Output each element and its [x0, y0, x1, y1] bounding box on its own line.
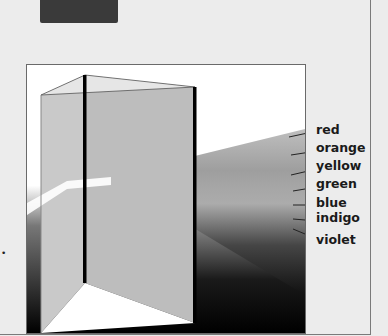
stray-mark: •	[1, 248, 6, 258]
label-violet: violet	[316, 233, 356, 247]
label-orange: orange	[316, 141, 366, 155]
prism-illustration	[26, 64, 306, 334]
prism-diagram	[27, 65, 305, 333]
label-yellow: yellow	[316, 159, 361, 173]
label-green: green	[316, 177, 357, 191]
label-red: red	[316, 123, 340, 137]
photo-fragment	[40, 0, 118, 23]
label-blue: blue	[316, 196, 347, 210]
label-indigo: indigo	[316, 211, 360, 225]
